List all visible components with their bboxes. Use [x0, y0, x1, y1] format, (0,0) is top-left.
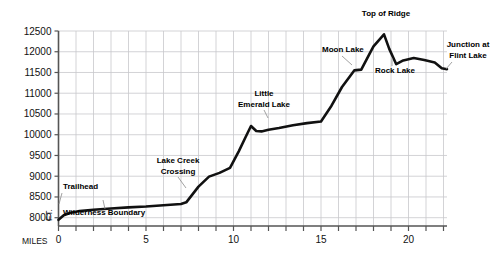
y-axis-tick-label: 11500 [24, 67, 52, 78]
x-axis: 05101520 [56, 226, 447, 245]
annotation-leader-line [59, 193, 62, 204]
annotation-label: Trailhead [63, 182, 98, 191]
chart-canvas: 8000850090009500100001050011000115001200… [0, 0, 502, 258]
x-axis-unit-label: MILES [22, 236, 48, 246]
landmark-annotation: Trailhead [59, 182, 98, 204]
x-axis-tick-label: 10 [228, 234, 240, 245]
landmark-annotation: Moon Lake [322, 45, 364, 65]
y-axis-tick-label: 9000 [29, 171, 52, 182]
y-axis-tick-label: 12000 [24, 46, 52, 57]
landmark-annotation: Wilderness Boundary [63, 200, 146, 217]
annotation-leader-line [342, 56, 352, 65]
annotation-leader-line [178, 177, 186, 188]
annotation-label: Top of Ridge [362, 9, 411, 18]
x-axis-tick-label: 15 [315, 234, 327, 245]
landmark-annotation: Top of Ridge [362, 9, 411, 18]
y-axis-unit-label: FT. [44, 209, 54, 221]
annotation-label: Rock Lake [375, 66, 416, 75]
y-axis-tick-label: 10500 [24, 108, 52, 119]
annotation-label: LittleEmerald Lake [238, 89, 291, 109]
x-axis-tick-label: 0 [56, 234, 62, 245]
annotation-label: Wilderness Boundary [63, 208, 146, 217]
y-axis-tick-label: 12500 [24, 26, 52, 37]
elevation-line [59, 34, 448, 219]
landmark-annotation: Junction atFlint Lake [446, 40, 490, 69]
y-axis-tick-label: 11000 [24, 88, 52, 99]
x-axis-tick-label: 5 [143, 234, 149, 245]
y-axis-tick-label: 8500 [29, 191, 52, 202]
y-axis: 8000850090009500100001050011000115001200… [24, 26, 59, 227]
elevation-profile-chart: 8000850090009500100001050011000115001200… [0, 0, 502, 258]
x-axis-tick-label: 20 [403, 234, 415, 245]
annotation-leader-line [446, 62, 452, 69]
annotation-label: Junction atFlint Lake [447, 40, 490, 60]
annotation-label: Moon Lake [322, 45, 364, 54]
y-axis-tick-label: 10000 [24, 129, 52, 140]
trail-landmark-annotations: TrailheadWilderness BoundaryLake CreekCr… [59, 9, 490, 217]
annotation-label: Lake CreekCrossing [157, 156, 200, 176]
y-axis-tick-label: 9500 [29, 150, 52, 161]
elevation-line-series [59, 34, 448, 219]
